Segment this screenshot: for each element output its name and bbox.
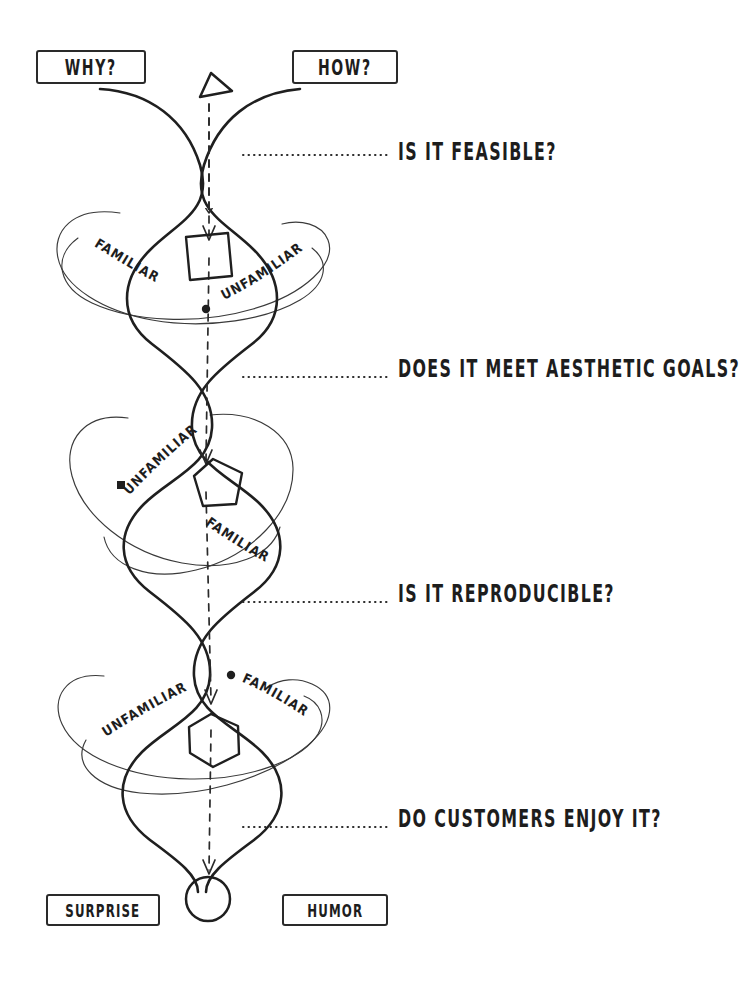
question-text-4: DO CUSTOMERS ENJOY IT? (398, 805, 662, 832)
label-box-surprise: SURPRISE (46, 894, 160, 926)
node-3-dot (227, 671, 235, 679)
node-3-ring-b (82, 680, 330, 794)
flow-arrow-line-4 (209, 730, 211, 870)
node-3-left-ring-label: UNFAMILIAR (99, 678, 190, 739)
left-spine (100, 89, 212, 892)
node-1-left-ring-label: FAMILIAR (92, 235, 162, 286)
label-box-how: HOW? (292, 50, 398, 84)
flow-arrow-group (200, 104, 217, 874)
terminal-markers (186, 73, 232, 921)
label-box-why: WHY? (36, 50, 146, 84)
label-box-surprise-text: SURPRISE (65, 899, 140, 920)
node-inner-shapes (186, 233, 242, 767)
label-box-humor-text: HUMOR (307, 899, 363, 920)
right-spine (192, 89, 300, 892)
question-text-2: DOES IT MEET AESTHETIC GOALS? (398, 355, 740, 382)
flow-arrow-line-2 (206, 258, 209, 460)
node-3-right-ring-label: FAMILIAR (240, 670, 312, 720)
question-text-1: IS IT FEASIBLE? (398, 138, 557, 165)
node-1-dot (202, 305, 210, 313)
node-2-left-ring-label: UNFAMILIAR (120, 421, 200, 498)
label-box-how-text: HOW? (318, 55, 372, 80)
hexagon-glyph (189, 714, 239, 767)
label-box-humor: HUMOR (282, 894, 388, 926)
triangle-marker (200, 73, 232, 97)
node-2-right-ring-label: FAMILIAR (203, 514, 272, 566)
question-text-3: IS IT REPRODUCIBLE? (398, 580, 615, 607)
label-box-why-text: WHY? (65, 55, 117, 80)
leader-lines (243, 155, 390, 827)
